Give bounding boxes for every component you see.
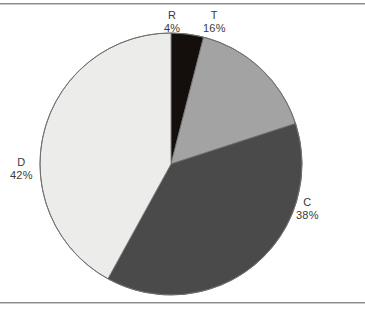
pie-label-t-percent: 16% [203,22,226,35]
pie-label-d-name: D [10,156,33,169]
pie-label-c-name: C [296,196,319,209]
pie-label-d: D 42% [10,156,33,181]
pie-label-d-percent: 42% [10,169,33,182]
pie-label-t-name: T [203,9,226,22]
pie-label-r: R 4% [164,9,180,34]
pie-label-c: C 38% [296,196,319,221]
pie-label-r-name: R [164,9,180,22]
pie-chart-graphic [0,0,365,317]
pie-label-r-percent: 4% [164,22,180,35]
pie-chart-figure: R 4% T 16% C 38% D 42% [0,0,365,317]
pie-label-t: T 16% [203,9,226,34]
pie-slice-group [40,33,302,295]
pie-label-c-percent: 38% [296,209,319,222]
